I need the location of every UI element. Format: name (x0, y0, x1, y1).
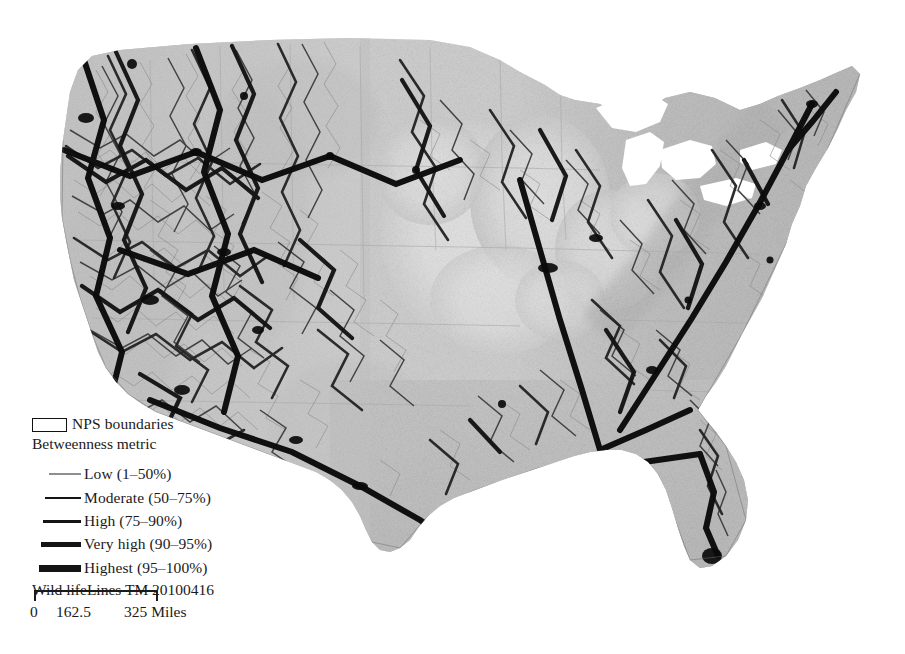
legend-swatch-moderate-cell (32, 497, 84, 499)
scale-bar-line (34, 590, 158, 592)
legend-swatch-very-high-cell (32, 542, 84, 547)
legend-item-moderate: Moderate (50–75%) (32, 486, 247, 510)
scale-bar-labels: 0 162.5 325 Miles (30, 603, 240, 625)
legend-item-high: High (75–90%) (32, 510, 247, 533)
legend-swatch-high-cell (32, 520, 84, 523)
legend-item-nps: NPS boundaries (32, 414, 247, 435)
scale-tick-start (34, 590, 36, 601)
legend-title: Betweenness metric (32, 436, 247, 457)
legend-label-high: High (75–90%) (84, 513, 182, 529)
line-swatch-very-high-icon (41, 542, 81, 547)
map-figure: NPS boundaries Betweenness metric Low (1… (0, 0, 905, 654)
nps-boundary-swatch-icon (32, 418, 67, 432)
line-swatch-high-icon (43, 520, 81, 523)
legend-swatch-highest-cell (32, 565, 84, 571)
map-legend: NPS boundaries Betweenness metric Low (1… (32, 414, 247, 598)
legend-item-low: Low (1–50%) (32, 462, 247, 486)
legend-label-low: Low (1–50%) (84, 466, 172, 482)
legend-item-highest: Highest (95–100%) (32, 556, 247, 581)
legend-label-moderate: Moderate (50–75%) (84, 490, 211, 506)
scale-label-mid: 162.5 (56, 603, 91, 621)
scale-tick-end (156, 590, 158, 601)
scale-bar-graphic (34, 590, 158, 603)
legend-swatch-low-cell (32, 473, 84, 474)
scale-bar: 0 162.5 325 Miles (30, 590, 240, 625)
line-swatch-highest-icon (39, 565, 81, 571)
legend-label-nps: NPS boundaries (72, 416, 174, 432)
scale-label-max: 325 Miles (124, 603, 186, 621)
legend-label-very-high: Very high (90–95%) (84, 536, 212, 552)
legend-item-very-high: Very high (90–95%) (32, 533, 247, 556)
scale-label-min: 0 (30, 603, 38, 621)
line-swatch-low-icon (49, 473, 81, 474)
legend-label-highest: Highest (95–100%) (84, 560, 208, 576)
line-swatch-moderate-icon (45, 497, 81, 499)
